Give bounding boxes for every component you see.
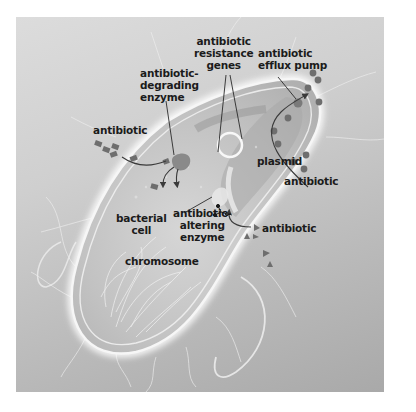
label-antibiotic-altering-enzyme: antibiotic- altering enzyme (173, 207, 232, 243)
label-antibiotic-resistance-genes: antibiotic resistance genes (194, 35, 253, 71)
label-antibiotic-left: antibiotic (93, 124, 147, 136)
label-antibiotic-bottom: antibiotic (262, 222, 316, 234)
label-antibiotic-right: antibiotic (284, 175, 338, 187)
label-plasmid: plasmid (257, 155, 302, 167)
bacterial-cell-diagram: antibiotic resistance genes antibiotic e… (16, 17, 384, 392)
label-antibiotic-efflux-pump: antibiotic efflux pump (258, 47, 327, 71)
label-antibiotic-degrading-enzyme: antibiotic- degrading enzyme (140, 67, 199, 103)
label-chromosome: chromosome (125, 255, 199, 267)
label-bacterial-cell: bacterial cell (116, 212, 167, 236)
cell-illustration (16, 17, 384, 392)
